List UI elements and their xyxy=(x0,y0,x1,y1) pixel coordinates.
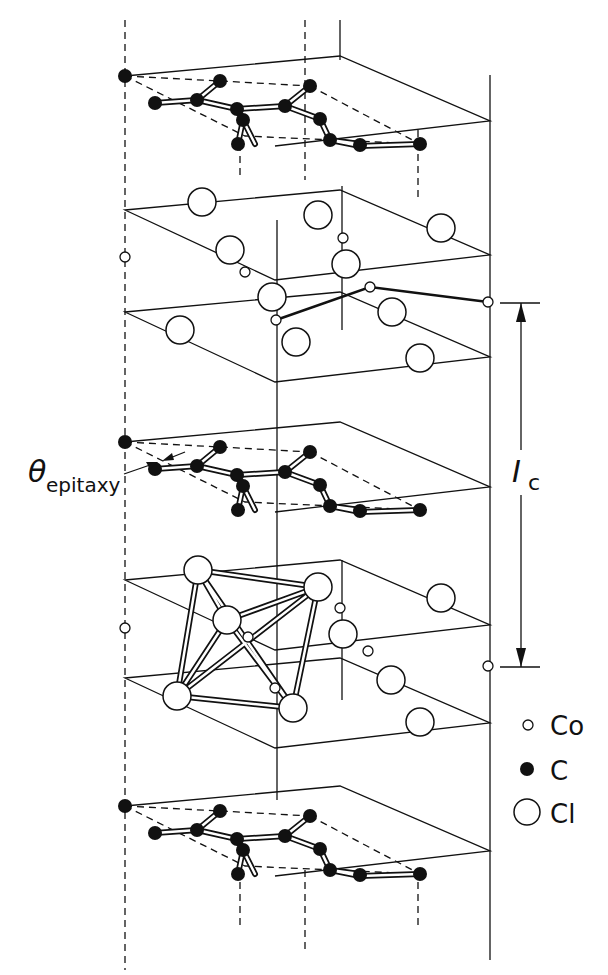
ic-subscript: c xyxy=(528,470,540,495)
legend-cl-icon xyxy=(514,799,540,825)
legend-c-icon xyxy=(520,762,534,776)
theta-symbol: θ xyxy=(28,454,46,489)
theta-subscript: epitaxy xyxy=(46,473,120,497)
ic-symbol: I xyxy=(512,454,521,489)
legend-cl-label: Cl xyxy=(550,799,575,829)
ic-dimension: I c xyxy=(500,303,540,667)
cocl2-layer-1 xyxy=(120,188,493,382)
theta-epitaxy-annotation: θ epitaxy xyxy=(28,452,185,497)
legend-c-label: C xyxy=(550,756,568,786)
graphite-layer-top xyxy=(118,56,490,152)
legend: Co C Cl xyxy=(514,711,584,829)
graphite-layer-middle xyxy=(118,422,490,518)
graphite-layer-bottom xyxy=(118,786,490,882)
crystal-structure-diagram: I c θ epitaxy Co C Cl xyxy=(0,0,608,975)
legend-co-label: Co xyxy=(550,711,584,741)
legend-co-icon xyxy=(523,720,533,730)
cocl2-layer-2 xyxy=(120,556,493,748)
